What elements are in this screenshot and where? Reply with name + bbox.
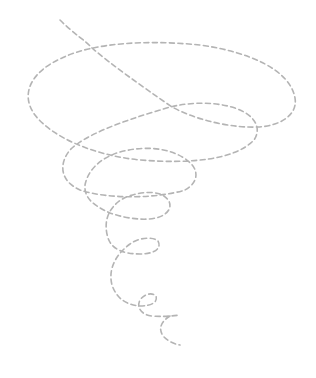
illustration-canvas [0,0,316,378]
tornado-spiral-icon [0,0,316,378]
dashed-spiral-line [28,20,295,345]
